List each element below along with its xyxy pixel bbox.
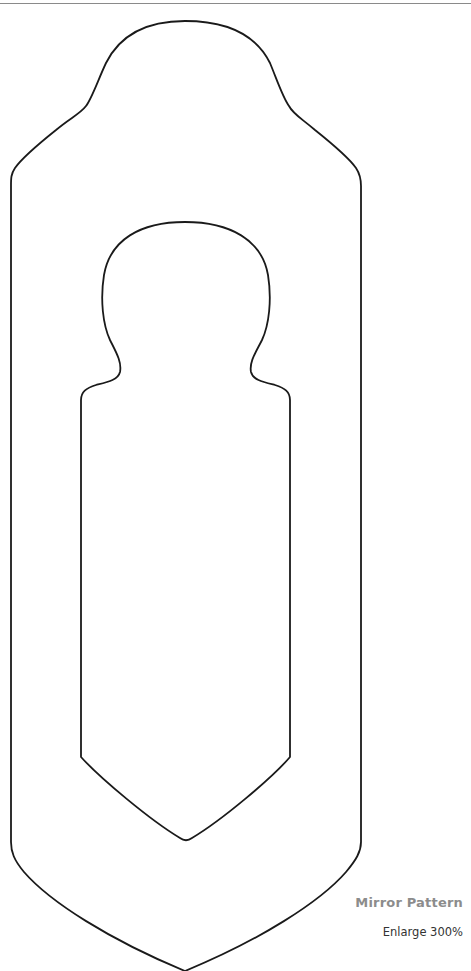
caption-title: Mirror Pattern bbox=[355, 895, 463, 910]
caption-subtitle: Enlarge 300% bbox=[383, 925, 463, 939]
inner-cutout-outline bbox=[81, 222, 290, 840]
outer-frame-outline bbox=[11, 21, 361, 971]
mirror-pattern-outline bbox=[0, 0, 471, 971]
